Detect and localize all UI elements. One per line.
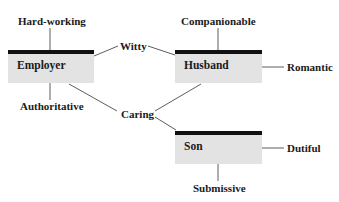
line-employer-witty — [94, 46, 118, 56]
role-label-employer: Employer — [17, 59, 66, 71]
line-husband-caring — [155, 84, 201, 111]
role-label-son: Son — [184, 140, 203, 152]
role-box-son: Son — [175, 131, 262, 164]
role-trait-diagram: Employer Husband Son Hard-working Author… — [0, 0, 339, 202]
trait-romantic: Romantic — [287, 62, 333, 73]
trait-hard-working: Hard-working — [18, 16, 86, 27]
trait-caring: Caring — [121, 109, 154, 120]
trait-dutiful: Dutiful — [287, 143, 321, 154]
trait-companionable: Companionable — [181, 16, 256, 27]
role-label-husband: Husband — [184, 59, 229, 71]
trait-witty: Witty — [120, 41, 147, 52]
role-box-employer: Employer — [8, 50, 94, 83]
line-witty-husband — [148, 46, 175, 55]
trait-submissive: Submissive — [193, 183, 246, 194]
trait-authoritative: Authoritative — [20, 101, 84, 112]
line-caring-son — [155, 117, 176, 130]
role-box-husband: Husband — [175, 50, 262, 83]
